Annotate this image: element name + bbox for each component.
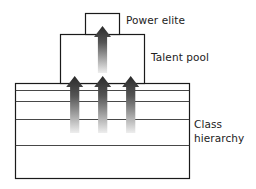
hierarchy-diagram xyxy=(0,0,256,189)
power-elite-label: Power elite xyxy=(126,14,185,27)
class-hierarchy-label-line1: Class xyxy=(194,118,244,132)
class-hierarchy-label-line2: hierarchy xyxy=(194,132,244,146)
talent-pool-label: Talent pool xyxy=(151,51,209,64)
diagram-canvas xyxy=(0,0,256,189)
class-hierarchy-label: Class hierarchy xyxy=(194,118,244,145)
